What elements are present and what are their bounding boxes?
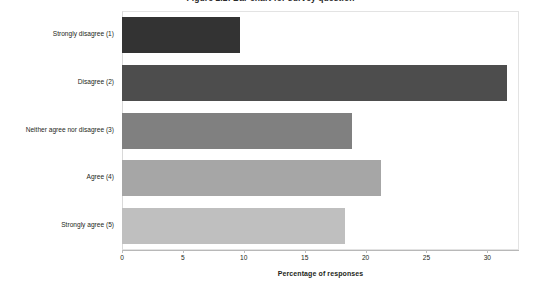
chart-title: Figure 2.2: Bar chart for survey questio… [0, 0, 541, 3]
bar-fill [122, 65, 507, 101]
bar [122, 160, 381, 196]
x-tick-label: 30 [472, 255, 502, 262]
category-label: Neither agree nor disagree (3) [0, 127, 114, 134]
x-axis-line [122, 250, 519, 251]
bar-fill [122, 113, 352, 149]
bar-fill [122, 160, 381, 196]
x-tick-mark [426, 250, 427, 253]
category-label: Agree (4) [0, 174, 114, 181]
category-label: Strongly agree (5) [0, 222, 114, 229]
x-tick-label: 25 [411, 255, 441, 262]
x-tick-label: 20 [351, 255, 381, 262]
bar [122, 208, 345, 244]
bar [122, 17, 240, 53]
category-label: Disagree (2) [0, 79, 114, 86]
category-axis-labels: Strongly disagree (1)Disagree (2)Neither… [0, 11, 118, 250]
x-tick-mark [487, 250, 488, 253]
bar [122, 65, 507, 101]
x-tick-mark [366, 250, 367, 253]
bar-fill [122, 208, 345, 244]
x-axis-title: Percentage of responses [122, 270, 519, 277]
x-tick-label: 5 [168, 255, 198, 262]
bar [122, 113, 352, 149]
bar-fill [122, 17, 240, 53]
x-tick-label: 0 [107, 255, 137, 262]
bar-chart: Figure 2.2: Bar chart for survey questio… [0, 0, 541, 295]
category-label: Strongly disagree (1) [0, 31, 114, 38]
x-tick-mark [305, 250, 306, 253]
x-tick-mark [183, 250, 184, 253]
x-tick-label: 15 [290, 255, 320, 262]
x-tick-mark [244, 250, 245, 253]
x-tick-label: 10 [229, 255, 259, 262]
x-tick-mark [122, 250, 123, 253]
